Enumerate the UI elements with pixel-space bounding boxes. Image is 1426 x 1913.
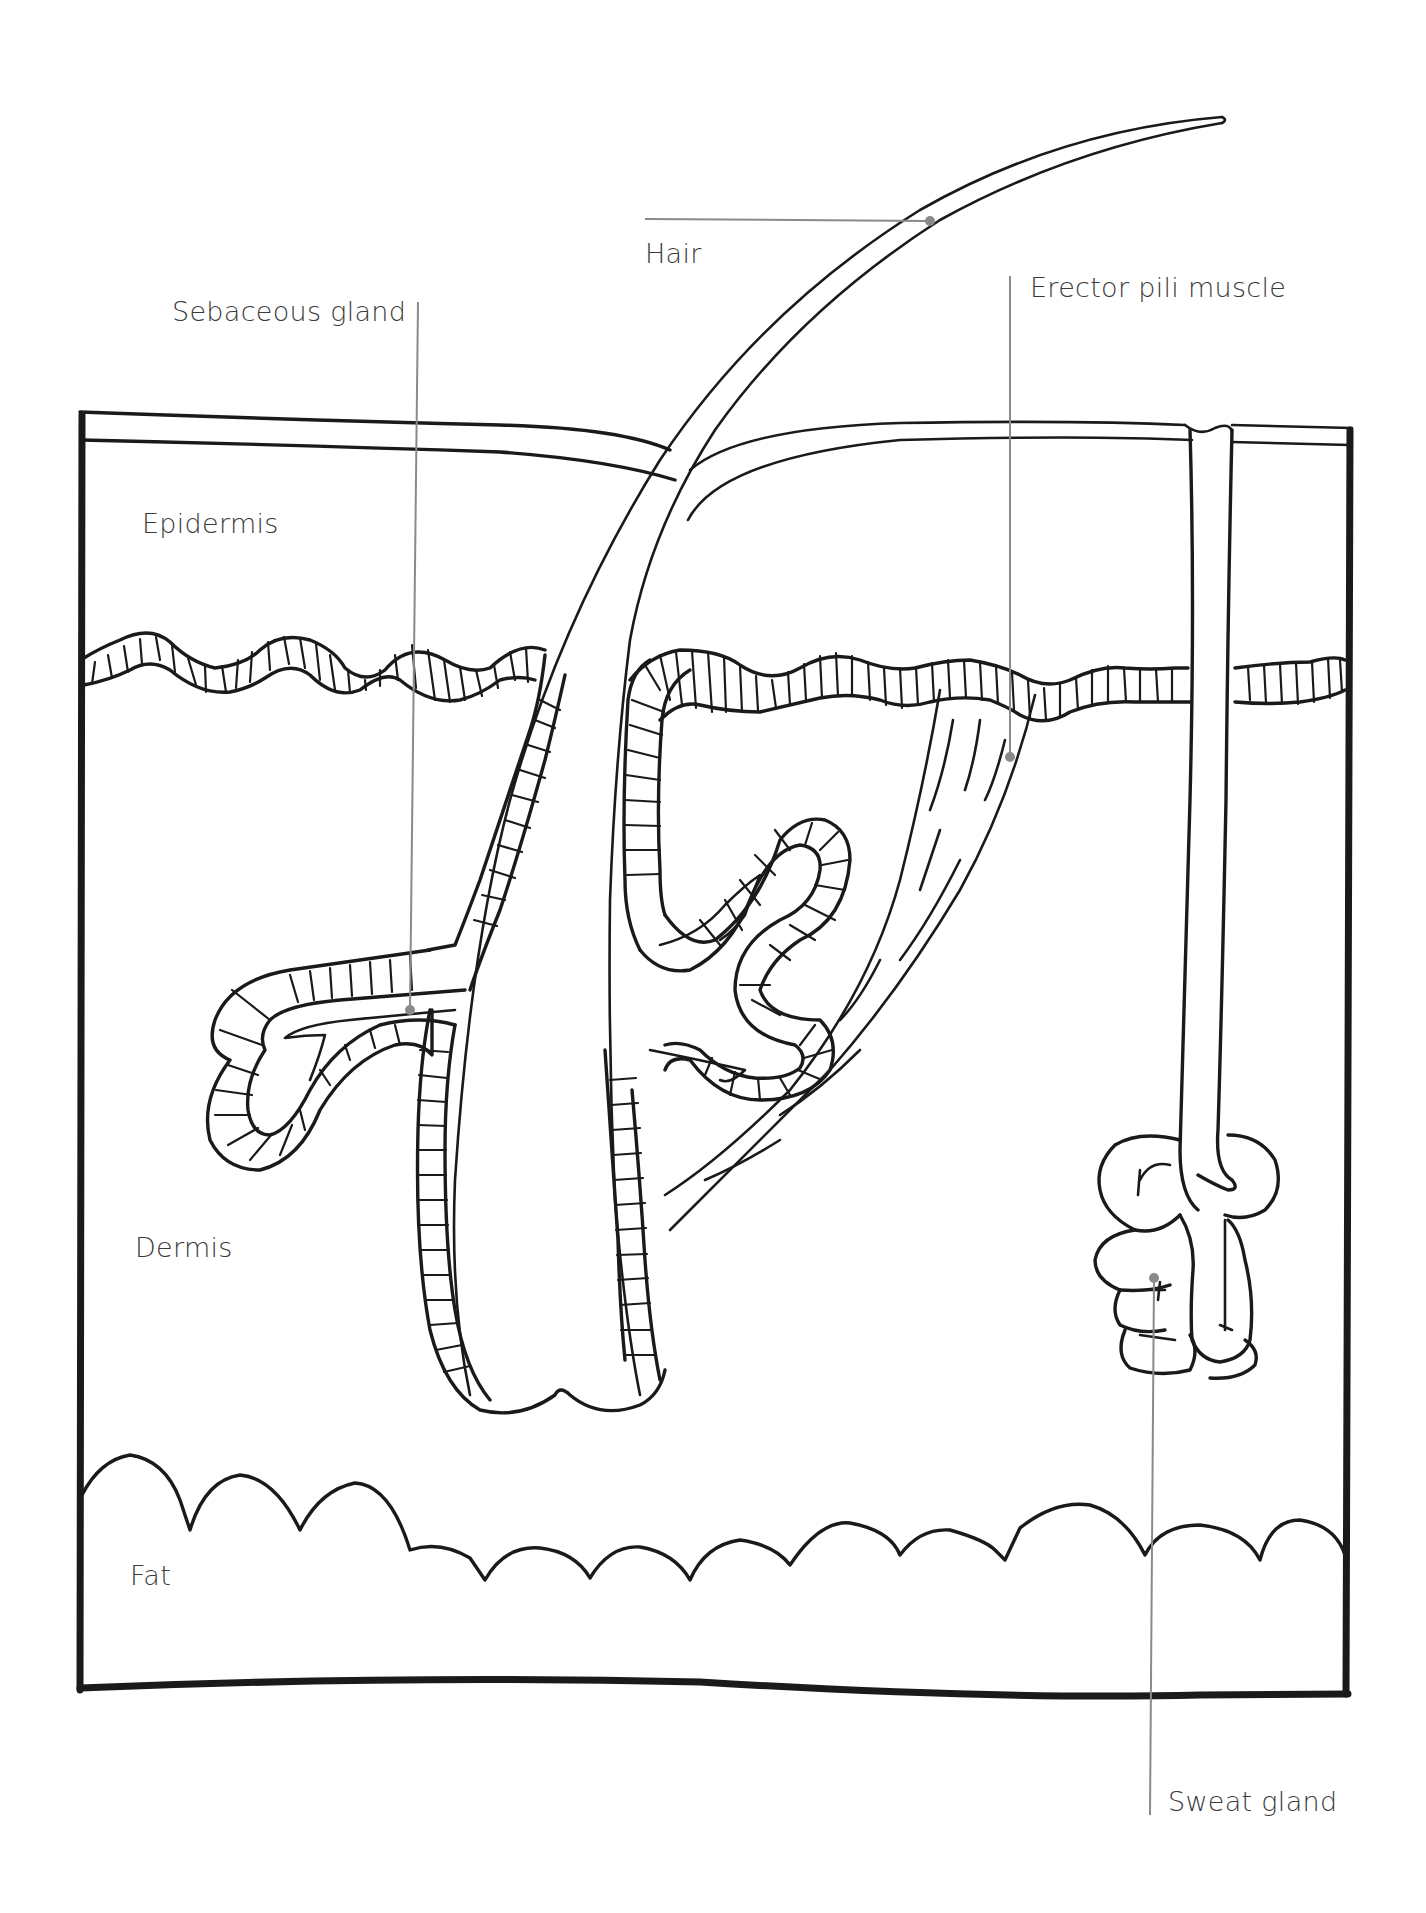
- label-erector-pili-muscle: Erector pili muscle: [1030, 272, 1286, 303]
- hair-follicle: [418, 655, 691, 1413]
- label-dermis: Dermis: [135, 1232, 233, 1263]
- sweat-gland: [1095, 430, 1278, 1378]
- label-fat: Fat: [130, 1560, 171, 1591]
- label-hair: Hair: [645, 238, 702, 269]
- leader-lines: [405, 216, 1159, 1815]
- diagram-frame: [80, 415, 1350, 1696]
- basal-layer: [84, 633, 1345, 721]
- fat-boundary: [82, 1455, 1345, 1580]
- label-sweat-gland: Sweat gland: [1168, 1786, 1337, 1817]
- sebaceous-gland-right: [640, 819, 850, 1100]
- label-sebaceous-gland: Sebaceous gland: [172, 296, 406, 327]
- sebaceous-gland-left: [208, 950, 466, 1170]
- hair-shaft: [454, 117, 1225, 1395]
- erector-pili-muscle: [665, 690, 1035, 1230]
- label-epidermis: Epidermis: [142, 508, 279, 539]
